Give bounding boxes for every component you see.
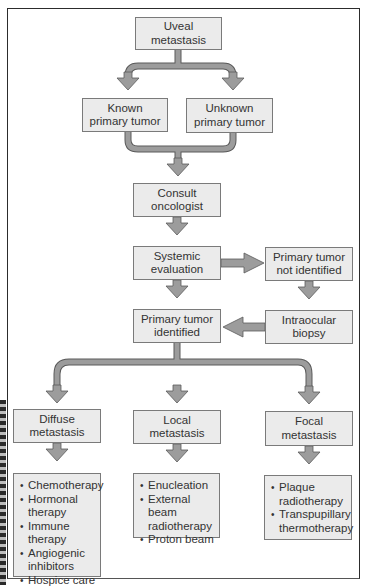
- list-item: Transpupillary thermotherapy: [271, 508, 348, 535]
- node-local-metastasis: Local metastasis: [133, 410, 221, 444]
- node-label: Focal: [295, 415, 323, 429]
- node-label: Unknown: [206, 102, 254, 116]
- node-label: metastasis: [30, 426, 85, 440]
- list-item: Enucleation: [140, 479, 216, 493]
- node-label: evaluation: [151, 263, 203, 277]
- node-label: Consult: [158, 187, 197, 201]
- node-label: oncologist: [151, 200, 203, 214]
- node-label: Uveal metastasis: [136, 20, 221, 47]
- node-label: Systemic: [154, 250, 201, 264]
- node-label: Diffuse: [39, 413, 75, 427]
- node-primary-tumor-identified: Primary tumor identified: [133, 309, 221, 343]
- node-primary-tumor-not-identified: Primary tumor not identified: [265, 247, 353, 281]
- node-unknown-primary-tumor: Unknown primary tumor: [186, 98, 273, 133]
- node-label: biopsy: [292, 327, 325, 341]
- list-item: Hospice care: [20, 574, 97, 587]
- node-label: primary tumor: [194, 116, 265, 130]
- list-item: Proton beam: [140, 533, 216, 547]
- list-item: Immune therapy: [20, 520, 97, 547]
- node-label: Intraocular: [282, 314, 336, 328]
- treatment-list-focal: Plaque radiotherapy Transpupillary therm…: [264, 475, 352, 540]
- list-item: Hormonal therapy: [20, 493, 97, 520]
- list-item: Angiogenic inhibitors: [20, 547, 97, 574]
- arrow-to-unknown: [222, 72, 244, 90]
- treatment-list-local: Enucleation External beam radiotherapy P…: [133, 473, 220, 538]
- list-item: Plaque radiotherapy: [271, 481, 348, 508]
- node-diffuse-metastasis: Diffuse metastasis: [13, 409, 101, 443]
- node-label: metastasis: [150, 427, 205, 441]
- node-label: Local: [163, 414, 191, 428]
- node-systemic-evaluation: Systemic evaluation: [133, 246, 221, 280]
- node-label: primary tumor: [90, 115, 161, 129]
- node-label: Known: [107, 102, 142, 116]
- node-label: Primary tumor: [141, 313, 213, 327]
- node-uveal-metastasis: Uveal metastasis: [135, 17, 222, 50]
- node-label: metastasis: [282, 429, 337, 443]
- node-intraocular-biopsy: Intraocular biopsy: [265, 310, 353, 344]
- list-item: External beam radiotherapy: [140, 493, 216, 534]
- list-item: Chemotherapy: [20, 479, 97, 493]
- node-label: not identified: [276, 264, 341, 278]
- node-consult-oncologist: Consult oncologist: [133, 183, 221, 217]
- arrow-to-known: [117, 72, 139, 90]
- node-focal-metastasis: Focal metastasis: [265, 411, 353, 446]
- node-label: identified: [154, 326, 200, 340]
- node-label: Primary tumor: [273, 251, 345, 265]
- node-known-primary-tumor: Known primary tumor: [82, 98, 168, 132]
- treatment-list-diffuse: Chemotherapy Hormonal therapy Immune the…: [13, 473, 101, 577]
